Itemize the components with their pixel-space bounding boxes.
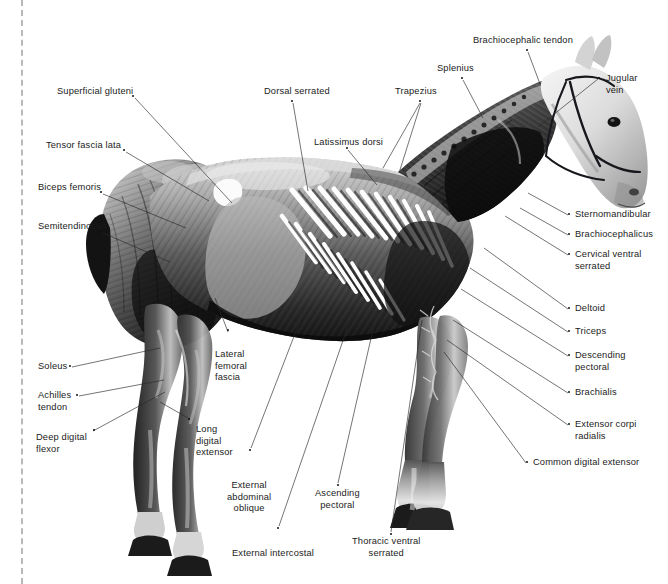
leader-line-trapezius	[399, 103, 421, 173]
label-triceps[interactable]: Triceps	[575, 326, 606, 338]
label-deep-digital-flexor[interactable]: Deep digital flexor	[36, 432, 87, 455]
label-deltoid[interactable]: Deltoid	[575, 303, 605, 315]
label-long-digital-extensor[interactable]: Long digital extensor	[196, 424, 233, 459]
label-biceps-femoris[interactable]: Biceps femoris	[38, 182, 101, 194]
leader-line-sternomandibular	[528, 193, 568, 215]
label-sternomandibular[interactable]: Sternomandibular	[575, 209, 651, 221]
label-jugular-vein[interactable]: Jugular vein	[606, 73, 638, 96]
anatomy-figure: Superficial gluteniTensor fascia lataBic…	[0, 0, 668, 584]
label-superficial-gluteni[interactable]: Superficial gluteni	[57, 86, 133, 98]
leader-line-descending-pectoral	[461, 289, 568, 356]
leader-line-common-digital-extensor	[444, 352, 526, 463]
leader-line-long-digital-extensor	[160, 402, 188, 418]
leader-line-triceps	[470, 268, 568, 332]
label-brachiocephalic-tendon[interactable]: Brachiocephalic tendon	[473, 35, 573, 47]
leader-line-brachiocephalic-tendon	[528, 52, 540, 84]
label-soleus[interactable]: Soleus	[38, 361, 67, 373]
label-latissimus-dorsi[interactable]: Latissimus dorsi	[314, 137, 383, 149]
label-splenius[interactable]: Splenius	[437, 63, 474, 75]
label-brachiocephalicus[interactable]: Brachiocephalicus	[575, 229, 653, 241]
label-ascending-pectoral[interactable]: Ascending pectoral	[315, 488, 360, 511]
label-descending-pectoral[interactable]: Descending pectoral	[575, 350, 626, 373]
leader-line-latissimus-dorsi	[348, 150, 377, 185]
label-extensor-corpi-radialis[interactable]: Extensor corpi radialis	[575, 419, 637, 442]
leader-line-jugular-vein	[538, 79, 598, 127]
leader-line-dorsal-serrated	[293, 103, 308, 191]
leader-line-extensor-corpi-radialis	[447, 340, 568, 425]
leader-line-achilles-tendon	[79, 380, 164, 396]
leader-line-biceps-femoris	[103, 194, 186, 228]
label-achilles-tendon[interactable]: Achilles tendon	[38, 390, 71, 413]
label-external-abdominal-oblique[interactable]: External abdominal oblique	[227, 480, 271, 515]
leader-line-deltoid	[484, 248, 568, 309]
leader-line-trapezius	[383, 103, 420, 168]
leader-line-tensor-fascia-lata	[126, 152, 209, 201]
leader-line-deep-digital-flexor	[93, 392, 165, 431]
leader-line-external-abdominal-oblique	[251, 300, 308, 448]
leader-line-cervical-ventral-serrated	[505, 216, 568, 255]
label-external-intercostal[interactable]: External intercostal	[232, 548, 314, 560]
label-thoracic-ventral-serrated[interactable]: Thoracic ventral serrated	[352, 536, 421, 559]
label-dorsal-serrated[interactable]: Dorsal serrated	[264, 86, 330, 98]
label-lateral-femoral-fascia[interactable]: Lateral femoral fascia	[215, 349, 247, 384]
leader-line-superficial-gluteni	[135, 98, 232, 203]
leader-line-semitendinosus	[103, 233, 170, 262]
label-brachialis[interactable]: Brachialis	[575, 387, 617, 399]
leader-line-brachiocephalicus	[520, 208, 568, 235]
label-cervical-ventral-serrated[interactable]: Cervical ventral serrated	[575, 249, 641, 272]
label-tensor-fascia-lata[interactable]: Tensor fascia lata	[46, 140, 121, 152]
label-common-digital-extensor[interactable]: Common digital extensor	[533, 457, 639, 469]
leader-line-lateral-femoral-fascia	[215, 298, 228, 332]
leader-line-soleus	[72, 348, 160, 367]
leader-line-splenius	[463, 80, 483, 118]
leader-line-thoracic-ventral-serrated	[391, 320, 422, 532]
label-trapezius[interactable]: Trapezius	[395, 86, 437, 98]
label-semitendinosus[interactable]: Semitendinosus	[38, 221, 106, 233]
